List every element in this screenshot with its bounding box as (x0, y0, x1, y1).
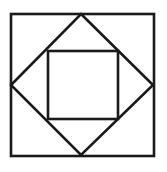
nested-squares-diagram (0, 0, 167, 172)
inscribed-diamond (11, 14, 153, 155)
inner-square (48, 51, 118, 119)
outer-square (11, 14, 154, 156)
